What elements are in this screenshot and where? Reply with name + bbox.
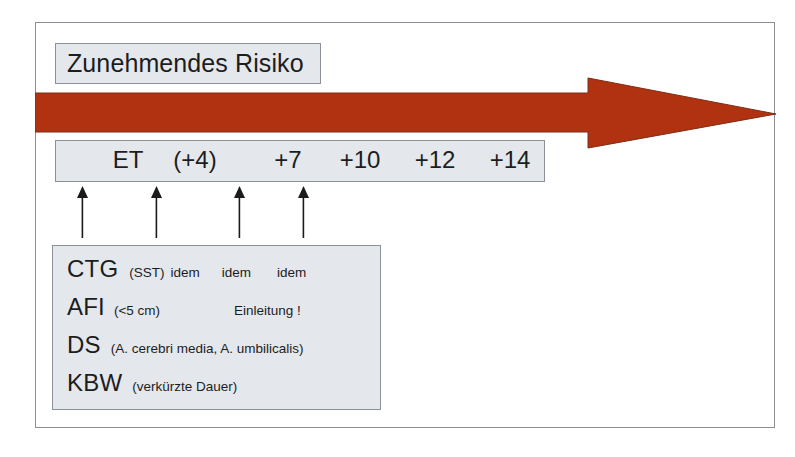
timeline-item-p12: +12 <box>415 146 456 174</box>
details-idem-3: idem <box>277 265 306 280</box>
timeline-item-p4: (+4) <box>173 146 216 174</box>
details-idem-2: idem <box>222 265 251 280</box>
timeline-item-et: ET <box>113 146 144 174</box>
details-abbr-ctg: CTG <box>67 255 118 283</box>
page-title: Zunehmendes Risiko <box>67 48 304 77</box>
marker-p10-icon <box>297 186 310 238</box>
marker-p4-icon <box>150 186 163 238</box>
details-row-ctg: CTG (SST) idem idem idem <box>67 255 372 291</box>
details-note-afi: (<5 cm) <box>114 303 160 318</box>
details-einleitung: Einleitung ! <box>234 303 301 318</box>
figure-canvas: Zunehmendes Risiko ET (+4) +7 +10 +12 +1… <box>0 0 795 457</box>
timeline-item-p14: +14 <box>490 146 531 174</box>
timeline-item-p10: +10 <box>340 146 381 174</box>
details-note-ds: (A. cerebri media, A. umbilicalis) <box>111 341 304 356</box>
details-idem-1: idem <box>171 265 200 280</box>
title-box: Zunehmendes Risiko <box>55 43 321 84</box>
timeline-item-p7: +7 <box>274 146 301 174</box>
details-abbr-kbw: KBW <box>67 369 122 397</box>
timeline-box: ET (+4) +7 +10 +12 +14 <box>55 140 545 182</box>
details-abbr-ds: DS <box>67 331 101 359</box>
details-row-kbw: KBW (verkürzte Dauer) <box>67 369 372 405</box>
marker-p7-icon <box>233 186 246 238</box>
marker-et-icon <box>76 186 89 238</box>
details-note-kbw: (verkürzte Dauer) <box>132 379 237 394</box>
details-abbr-afi: AFI <box>67 293 105 321</box>
details-box: CTG (SST) idem idem idem AFI (<5 cm) Ein… <box>52 245 381 410</box>
details-row-ds: DS (A. cerebri media, A. umbilicalis) <box>67 331 372 367</box>
details-row-afi: AFI (<5 cm) Einleitung ! <box>67 293 372 329</box>
details-note-ctg: (SST) <box>129 265 164 280</box>
